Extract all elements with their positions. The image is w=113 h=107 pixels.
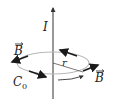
diagram-canvas: I B r B C 0: [0, 0, 113, 107]
current-label: I: [42, 20, 48, 34]
svg-text:B: B: [94, 71, 104, 85]
svg-text:B: B: [13, 44, 23, 58]
b-vector-back-icon: [60, 50, 77, 56]
field-label-right: B: [94, 70, 104, 86]
svg-text:C: C: [13, 75, 22, 89]
curve-label: C 0: [13, 75, 27, 91]
field-label-left: B: [13, 43, 23, 59]
radius-line: [53, 63, 83, 72]
svg-text:0: 0: [22, 82, 27, 91]
circulation-arrow-icon: [58, 76, 83, 80]
radius-label: r: [62, 57, 68, 68]
